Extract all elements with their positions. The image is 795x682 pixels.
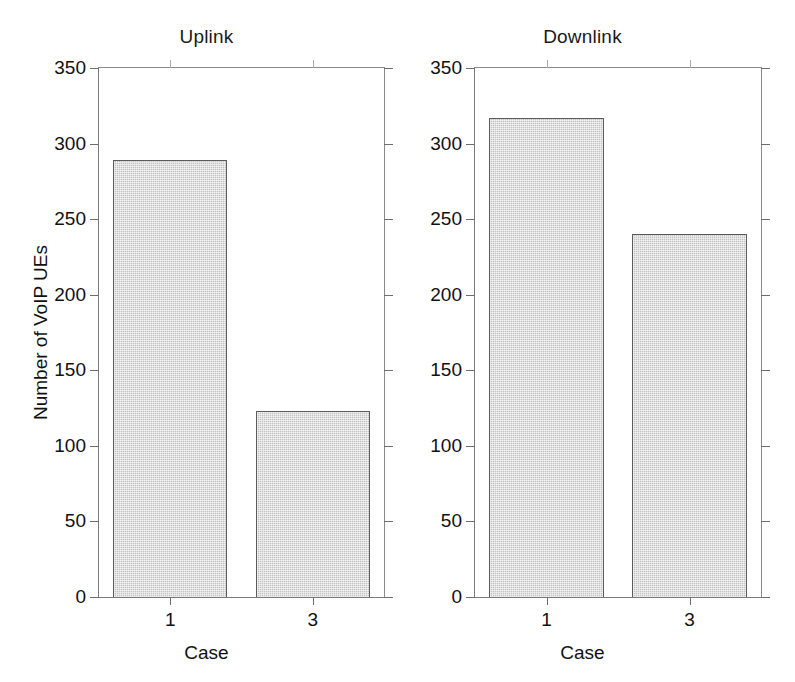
y-tick-150 <box>466 370 475 371</box>
y-tick-right-250 <box>761 219 770 220</box>
y-tick-right-50 <box>761 521 770 522</box>
y-tick-right-200 <box>761 295 770 296</box>
y-tick-label-200: 200 <box>430 284 462 306</box>
y-tick-200 <box>466 295 475 296</box>
y-tick-label-150: 150 <box>54 359 86 381</box>
y-tick-50 <box>466 521 475 522</box>
panel-uplink: Uplink Number of VoIP UEs 05010015020025… <box>0 0 397 682</box>
y-tick-300 <box>466 144 475 145</box>
y-tick-label-50: 50 <box>441 510 462 532</box>
x-tick-top-1 <box>170 60 171 68</box>
x-tick-label-3: 3 <box>307 609 318 631</box>
y-tick-right-250 <box>384 219 393 220</box>
figure-container: Uplink Number of VoIP UEs 05010015020025… <box>0 0 795 682</box>
y-tick-right-350 <box>384 68 393 69</box>
y-tick-label-300: 300 <box>54 133 86 155</box>
y-tick-label-100: 100 <box>430 435 462 457</box>
y-tick-right-350 <box>761 68 770 69</box>
y-tick-350 <box>90 68 99 69</box>
x-tick-label-1: 1 <box>541 609 552 631</box>
y-tick-right-150 <box>384 370 393 371</box>
x-tick-1 <box>547 597 548 605</box>
y-tick-label-100: 100 <box>54 435 86 457</box>
y-tick-label-350: 350 <box>430 57 462 79</box>
plot-area-uplink: 050100150200250300350 13 <box>98 67 385 598</box>
y-tick-label-250: 250 <box>430 208 462 230</box>
bar-group-uplink <box>99 68 384 597</box>
y-tick-right-300 <box>761 144 770 145</box>
bar-uplink-case-3 <box>256 411 370 597</box>
x-tick-3 <box>690 597 691 605</box>
y-tick-0 <box>90 597 99 598</box>
y-tick-100 <box>90 446 99 447</box>
y-tick-150 <box>90 370 99 371</box>
y-tick-200 <box>90 295 99 296</box>
x-tick-1 <box>170 597 171 605</box>
x-tick-label-1: 1 <box>165 609 176 631</box>
y-tick-0 <box>466 597 475 598</box>
x-tick-3 <box>313 597 314 605</box>
bar-downlink-case-3 <box>632 234 746 597</box>
x-tick-label-3: 3 <box>684 609 695 631</box>
y-tick-right-100 <box>761 446 770 447</box>
y-tick-350 <box>466 68 475 69</box>
y-tick-label-250: 250 <box>54 208 86 230</box>
panel-downlink: Downlink 050100150200250300350 13 Case <box>398 0 795 682</box>
y-tick-250 <box>90 219 99 220</box>
y-tick-right-150 <box>761 370 770 371</box>
y-tick-right-200 <box>384 295 393 296</box>
y-tick-right-50 <box>384 521 393 522</box>
panel-title-downlink: Downlink <box>384 26 781 48</box>
y-tick-label-0: 0 <box>451 586 462 608</box>
y-tick-label-50: 50 <box>65 510 86 532</box>
y-tick-50 <box>90 521 99 522</box>
x-axis-label-uplink: Case <box>8 642 405 664</box>
bar-uplink-case-1 <box>113 160 227 597</box>
panel-title-uplink: Uplink <box>8 26 405 48</box>
y-tick-right-100 <box>384 446 393 447</box>
y-tick-300 <box>90 144 99 145</box>
x-tick-top-3 <box>690 60 691 68</box>
y-tick-label-300: 300 <box>430 133 462 155</box>
y-axis-label-uplink: Number of VoIP UEs <box>30 245 52 420</box>
bar-group-downlink <box>475 68 761 597</box>
y-tick-right-300 <box>384 144 393 145</box>
y-tick-right-0 <box>384 597 393 598</box>
x-tick-top-1 <box>547 60 548 68</box>
y-tick-250 <box>466 219 475 220</box>
y-tick-100 <box>466 446 475 447</box>
y-tick-label-150: 150 <box>430 359 462 381</box>
x-axis-label-downlink: Case <box>384 642 781 664</box>
y-tick-right-0 <box>761 597 770 598</box>
y-tick-label-350: 350 <box>54 57 86 79</box>
y-tick-label-0: 0 <box>75 586 86 608</box>
y-tick-label-200: 200 <box>54 284 86 306</box>
x-tick-top-3 <box>313 60 314 68</box>
bar-downlink-case-1 <box>489 118 603 597</box>
plot-area-downlink: 050100150200250300350 13 <box>474 67 762 598</box>
